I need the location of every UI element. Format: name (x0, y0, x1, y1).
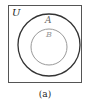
venn-diagram: U A B (a) (0, 0, 90, 105)
set-a-label: A (44, 15, 52, 25)
caption: (a) (39, 89, 51, 99)
set-b-label: B (45, 30, 52, 39)
universe-label: U (12, 7, 21, 18)
